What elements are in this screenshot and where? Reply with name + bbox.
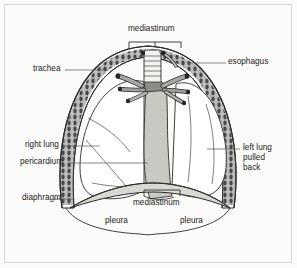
label-pericardium: pericardium <box>20 157 63 167</box>
label-mediastinum-top: mediastinum <box>128 24 175 34</box>
label-diaphragm: diaphragm <box>22 193 61 203</box>
label-left-lung-line2: pulled <box>243 153 265 163</box>
label-right-lung: right lung <box>25 140 59 150</box>
label-pleura-left: pleura <box>105 216 128 226</box>
pleural-reflection-lines <box>66 208 230 235</box>
label-esophagus: esophagus <box>228 57 268 67</box>
label-mediastinum-bottom: mediastinum <box>133 198 180 208</box>
label-trachea: trachea <box>33 64 60 74</box>
anatomy-illustration <box>0 0 297 268</box>
label-left-lung-line1: left lung <box>243 143 272 153</box>
label-pleura-right: pleura <box>180 216 203 226</box>
anatomy-figure: mediastinum trachea esophagus right lung… <box>0 0 297 268</box>
mediastinum-shape <box>144 86 174 200</box>
label-left-lung-line3: back <box>243 163 260 173</box>
